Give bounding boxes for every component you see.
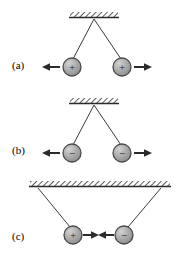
panel-a-diagram: + + <box>0 0 183 86</box>
panel-label-b: (b) <box>12 145 25 156</box>
panel-b-diagram: − − <box>0 86 183 172</box>
right-sphere: − <box>113 144 131 162</box>
right-string <box>94 19 121 59</box>
left-string <box>73 19 94 59</box>
right-force-arrow <box>98 231 114 239</box>
right-sphere: − <box>115 226 133 244</box>
ceiling-support <box>29 181 171 187</box>
strings <box>38 188 161 227</box>
right-sphere-sign: − <box>119 147 125 159</box>
right-force-arrow <box>134 149 152 157</box>
left-force-arrow <box>42 149 60 157</box>
right-force-arrow <box>134 63 152 71</box>
panel-c-diagram: + − <box>0 172 183 259</box>
left-force-arrow <box>42 63 60 71</box>
ceiling-support <box>69 98 119 104</box>
panel-b: − − <box>0 86 183 172</box>
left-sphere-sign: + <box>69 61 75 73</box>
left-string <box>73 105 94 145</box>
left-string <box>38 188 70 227</box>
ceiling-support <box>69 12 119 18</box>
right-sphere-sign: + <box>119 61 125 73</box>
panel-label-c: (c) <box>12 231 24 242</box>
figure-root: + + <box>0 0 183 259</box>
left-sphere-sign: + <box>70 229 76 241</box>
left-sphere: − <box>63 144 81 162</box>
strings <box>73 19 121 59</box>
right-sphere-sign: − <box>121 229 127 241</box>
left-sphere-sign: − <box>69 147 75 159</box>
strings <box>73 105 121 145</box>
right-string <box>128 188 161 227</box>
panel-label-a: (a) <box>12 60 24 71</box>
left-sphere: + <box>63 58 81 76</box>
left-force-arrow <box>83 231 99 239</box>
ceiling-hatching <box>70 12 118 17</box>
ceiling-hatching <box>30 181 170 186</box>
ceiling-hatching <box>70 98 118 103</box>
right-string <box>94 105 121 145</box>
panel-a: + + <box>0 0 183 86</box>
right-sphere: + <box>113 58 131 76</box>
panel-c: + − <box>0 172 183 259</box>
left-sphere: + <box>64 226 82 244</box>
